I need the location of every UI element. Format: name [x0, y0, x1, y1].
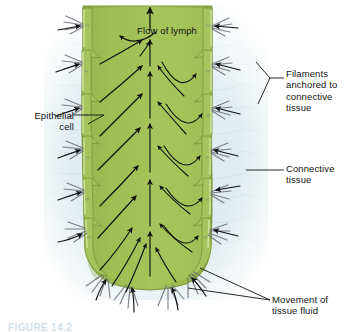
figure-caption: FIGURE 14.2	[8, 322, 72, 332]
label-movement-of-tissue-fluid: Movement of tissue fluid	[272, 294, 358, 317]
label-connective-tissue: Connective tissue	[286, 163, 356, 186]
label-filaments-anchored-to-connective-tissue: Filaments anchored to connective tissue	[286, 68, 358, 114]
lymphatic-capillary-figure: Flow of lymph Epithelial cell Filaments …	[0, 0, 359, 332]
lymphatic-vessel	[82, 6, 212, 290]
label-flow-of-lymph: Flow of lymph	[112, 25, 222, 36]
label-epithelial-cell: Epithelial cell	[2, 110, 74, 133]
